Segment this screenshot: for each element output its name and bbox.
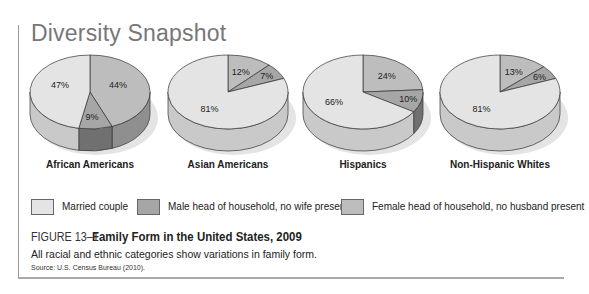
legend-label-female-head: Female head of household, no husband pre…	[372, 201, 584, 212]
legend-label-married: Married couple	[62, 201, 128, 212]
chart-legend: Married couple Male head of household, n…	[0, 199, 589, 219]
legend-swatch-married	[31, 199, 54, 215]
pie-non-hispanic-whites: 13%6%81%	[440, 55, 568, 155]
pie-side-male	[79, 126, 112, 151]
figure-title: Family Form in the United States, 2009	[92, 229, 302, 244]
pie-pct-male: 9%	[85, 112, 98, 122]
pie-pct-male: 10%	[399, 94, 417, 104]
figure-source: Source: U.S. Census Bureau (2010).	[31, 264, 145, 271]
frame-bottom-rule	[18, 277, 564, 279]
pie-pct-married: 66%	[325, 97, 343, 107]
pie-african-americans: 44%9%47%	[30, 55, 158, 155]
pie-label-asian-americans: Asian Americans	[153, 159, 303, 170]
pie-pct-married: 81%	[200, 104, 218, 114]
pie-pct-married: 47%	[51, 80, 69, 90]
pie-label-african-americans: African Americans	[15, 159, 165, 170]
pie-pct-male: 6%	[533, 72, 546, 82]
pie-pct-female: 13%	[505, 67, 523, 77]
figure-caption: All racial and ethnic categories show va…	[31, 248, 317, 260]
figure-number: FIGURE 13–1	[31, 230, 99, 244]
pie-pct-female: 24%	[378, 71, 396, 81]
pie-label-hispanics: Hispanics	[288, 159, 438, 170]
pie-hispanics: 24%10%66%	[303, 55, 431, 155]
legend-label-male-head: Male head of household, no wife present	[168, 201, 348, 212]
legend-swatch-female-head	[341, 199, 364, 215]
pie-asian-americans: 12%7%81%	[168, 55, 296, 155]
pie-label-non-hispanic-whites: Non-Hispanic Whites	[425, 159, 575, 170]
legend-swatch-male-head	[137, 199, 160, 215]
pie-pct-female: 12%	[232, 67, 250, 77]
pie-pct-male: 7%	[260, 71, 273, 81]
pie-pct-female: 44%	[109, 80, 127, 90]
pie-pct-married: 81%	[472, 104, 490, 114]
